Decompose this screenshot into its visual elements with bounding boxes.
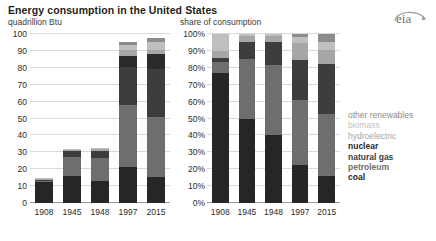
bar-segment-other-renewables (119, 42, 136, 44)
y-axis-tick-label: 20% (188, 164, 205, 174)
bar-segment-petroleum (63, 157, 80, 176)
legend-item-other-renewables: other renewables (348, 110, 436, 120)
bar-1948 (265, 34, 281, 203)
bar-segment-natural-gas (239, 42, 255, 58)
x-axis-tick-label: 1948 (91, 207, 110, 217)
x-axis-tick-label: 1908 (35, 207, 54, 217)
bar-segment-natural-gas (35, 180, 52, 181)
y-axis-tick-label: 80 (18, 63, 27, 73)
bar-segment-natural-gas (265, 42, 281, 65)
bar-segment-biomass (35, 178, 52, 179)
bar-segment-hydroelectric (147, 50, 164, 54)
bar-segment-petroleum (318, 114, 334, 176)
bar-segment-biomass (318, 42, 334, 50)
bar-segment-biomass (147, 42, 164, 50)
y-axis-tick-label: 90 (18, 46, 27, 56)
bar-segment-biomass (91, 148, 108, 149)
left-chart-axis-title: quadrillion Btu (8, 17, 62, 27)
y-axis-tick-label: 20 (18, 164, 27, 174)
left-x-axis-labels: 19081945194819972015 (30, 207, 170, 221)
bar-segment-natural-gas (119, 67, 136, 105)
bar-segment-hydroelectric (119, 50, 136, 56)
bar-segment-coal (292, 165, 308, 203)
bar-2015 (318, 34, 334, 203)
left-y-axis-labels: 0102030405060708090100 (0, 34, 27, 203)
bar-segment-biomass (239, 34, 255, 36)
bar-segment-hydroelectric (318, 50, 334, 64)
y-axis-tick-label: 40% (188, 130, 205, 140)
bar-segment-biomass (212, 34, 228, 51)
x-axis-tick-label: 2015 (147, 207, 166, 217)
bar-segment-natural-gas (91, 151, 108, 159)
bar-segment-petroleum (292, 100, 308, 165)
bar-segment-hydroelectric (292, 43, 308, 60)
bar-segment-biomass (292, 37, 308, 43)
bar-segment-petroleum (265, 65, 281, 135)
bar-segment-petroleum (147, 117, 164, 177)
y-axis-tick-label: 40 (18, 130, 27, 140)
y-axis-tick-label: 50 (18, 114, 27, 124)
right-chart-axis-title: share of consumption (180, 17, 261, 27)
bar-segment-petroleum (212, 62, 228, 73)
bar-segment-hydroelectric (212, 51, 228, 58)
right-chart-plot-area (207, 34, 340, 203)
y-axis-tick-label: 30 (18, 147, 27, 157)
bar-segment-nuclear (147, 54, 164, 68)
bar-1948 (91, 148, 108, 203)
bar-1908 (35, 178, 52, 203)
bar-segment-hydroelectric (63, 149, 80, 151)
y-axis-tick-label: 70% (188, 80, 205, 90)
y-axis-tick-label: 60% (188, 97, 205, 107)
y-axis-tick-label: 0% (193, 198, 205, 208)
eia-logo: eia (392, 7, 430, 29)
y-axis-tick-label: 50% (188, 114, 205, 124)
bar-segment-biomass (63, 149, 80, 150)
bar-segment-biomass (265, 34, 281, 36)
bar-segment-other-renewables (292, 34, 308, 37)
y-axis-tick-label: 90% (188, 46, 205, 56)
x-axis-tick-label: 1945 (63, 207, 82, 217)
gridline (30, 33, 170, 34)
bar-segment-hydroelectric (91, 148, 108, 150)
y-axis-tick-label: 100 (13, 29, 27, 39)
bar-segment-coal (91, 181, 108, 203)
y-axis-tick-label: 60 (18, 97, 27, 107)
bar-segment-petroleum (239, 59, 255, 119)
y-axis-tick-label: 80% (188, 63, 205, 73)
bar-segment-coal (239, 119, 255, 204)
bar-1997 (292, 34, 308, 203)
bar-1908 (212, 34, 228, 203)
bar-segment-biomass (119, 45, 136, 50)
y-axis-tick-label: 10 (18, 181, 27, 191)
legend-item-nuclear: nuclear (348, 141, 436, 151)
bar-segment-petroleum (119, 105, 136, 167)
x-axis-tick-label: 1997 (119, 207, 138, 217)
bar-segment-other-renewables (318, 34, 334, 42)
bar-segment-petroleum (35, 180, 52, 182)
bar-segment-hydroelectric (239, 36, 255, 43)
bar-segment-coal (265, 135, 281, 203)
bar-segment-natural-gas (63, 151, 80, 156)
bar-1945 (63, 149, 80, 203)
legend-item-biomass: biomass (348, 120, 436, 130)
bar-segment-natural-gas (212, 58, 228, 62)
legend-item-natural-gas: natural gas (348, 152, 436, 162)
bar-1945 (239, 34, 255, 203)
bar-segment-natural-gas (292, 60, 308, 100)
y-axis-tick-label: 100% (183, 29, 205, 39)
y-axis-tick-label: 30% (188, 147, 205, 157)
legend-item-petroleum: petroleum (348, 162, 436, 172)
bar-2015 (147, 38, 164, 203)
x-axis-tick-label: 1948 (264, 207, 283, 217)
chart-legend: other renewablesbiomasshydroelectricnucl… (348, 110, 436, 183)
bar-segment-coal (212, 73, 228, 203)
bar-1997 (119, 42, 136, 203)
y-axis-tick-label: 10% (188, 181, 205, 191)
legend-item-hydroelectric: hydroelectric (348, 131, 436, 141)
bar-segment-hydroelectric (265, 36, 281, 43)
legend-item-coal: coal (348, 172, 436, 182)
bar-segment-petroleum (91, 158, 108, 181)
bar-segment-natural-gas (318, 64, 334, 114)
x-axis-tick-label: 1945 (237, 207, 256, 217)
bar-segment-coal (147, 177, 164, 203)
